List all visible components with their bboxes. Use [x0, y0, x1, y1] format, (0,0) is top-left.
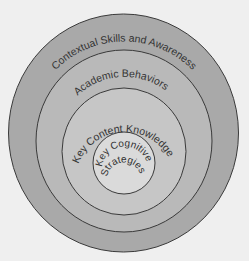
- concentric-circles-diagram: Contextual Skills and Awareness Academic…: [0, 0, 249, 261]
